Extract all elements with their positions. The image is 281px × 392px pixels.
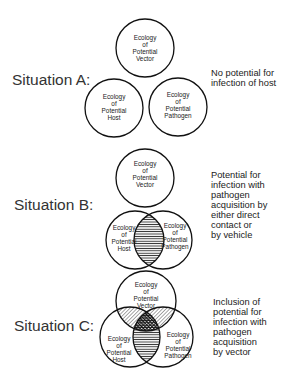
svg-text:Potential: Potential [107,349,132,356]
svg-text:contact or: contact or [211,220,252,230]
svg-text:acquisition by: acquisition by [211,200,268,210]
svg-text:Potential: Potential [133,48,158,55]
svg-text:of: of [142,41,148,48]
circle-pathogen: Ecology of Potential Pathogen [149,78,207,136]
svg-text:Host: Host [117,245,130,252]
svg-text:of: of [175,98,181,105]
svg-text:potential for: potential for [213,307,262,317]
situation-a-description: No potential for infection of host [211,68,277,88]
svg-text:of: of [172,229,178,236]
svg-text:either direct: either direct [211,210,260,220]
svg-text:Pathogen: Pathogen [164,352,192,360]
svg-text:of: of [175,338,181,345]
svg-text:Vector: Vector [137,302,156,309]
svg-text:Pathogen: Pathogen [161,243,189,251]
svg-text:Potential: Potential [134,295,159,302]
svg-text:Vector: Vector [136,181,155,188]
svg-text:Host: Host [107,114,120,121]
svg-text:pathogen: pathogen [213,327,252,337]
svg-text:of: of [116,342,122,349]
situation-a-label: Situation A: [12,71,90,88]
svg-text:Potential: Potential [133,174,158,181]
svg-text:infection with: infection with [211,180,265,190]
svg-text:Potential: Potential [166,105,191,112]
svg-text:of: of [142,167,148,174]
svg-text:acquisition: acquisition [213,337,257,347]
situation-c: Situation C: Ecology of Potential Vector [14,271,267,367]
ecology-venn-diagram: Situation A: Ecology of Potential Vector… [0,0,281,392]
situation-c-description: Inclusion of potential for infection wit… [213,297,267,357]
situation-b-description: Potential for infection with pathogen ac… [211,170,268,240]
situation-c-label: Situation C: [14,317,94,334]
svg-text:infection with: infection with [213,317,267,327]
svg-text:of: of [143,288,149,295]
circle-vector: Ecology of Potential Vector [116,149,174,207]
svg-text:by vector: by vector [213,347,251,357]
circle-host: Ecology of Potential Host [85,79,143,137]
svg-text:Vector: Vector [136,55,155,62]
svg-text:No potential for: No potential for [211,68,274,78]
svg-text:pathogen: pathogen [211,190,250,200]
circle-vector: Ecology of Potential Vector [116,19,174,77]
situation-b: Situation B: Ecology of Potential Vector… [14,149,268,269]
svg-text:by vehicle: by vehicle [211,230,252,240]
situation-b-label: Situation B: [14,196,93,213]
svg-text:of: of [121,231,127,238]
svg-text:infection of host: infection of host [211,78,277,88]
svg-text:Potential: Potential [112,238,137,245]
svg-text:of: of [111,100,117,107]
situation-a: Situation A: Ecology of Potential Vector… [12,19,277,137]
svg-text:Host: Host [112,356,125,363]
svg-text:Potential for: Potential for [211,170,261,180]
svg-text:Inclusion of: Inclusion of [213,297,260,307]
svg-text:Potential: Potential [163,236,188,243]
svg-text:Pathogen: Pathogen [164,112,192,120]
svg-text:Potential: Potential [102,107,127,114]
svg-text:Potential: Potential [166,345,191,352]
